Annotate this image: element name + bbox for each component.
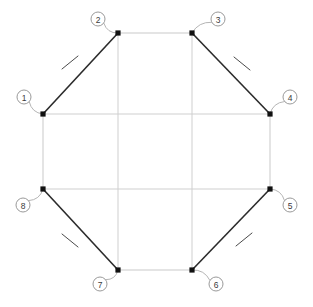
vertex-dot-4[interactable] — [267, 111, 272, 116]
vertex-dot-7[interactable] — [115, 267, 120, 272]
label-number-5: 5 — [288, 201, 293, 211]
label-number-4: 4 — [288, 93, 293, 103]
leader-line-vertex-6 — [192, 270, 210, 280]
vertex-dots-layer — [40, 30, 272, 272]
vertex-label-7[interactable]: 7 — [93, 277, 107, 291]
tick-edge-1-2 — [62, 56, 78, 69]
vertex-dot-2[interactable] — [115, 30, 120, 35]
vertex-dot-3[interactable] — [189, 30, 194, 35]
vertex-label-4[interactable]: 4 — [283, 90, 297, 104]
vertex-labels-layer: 12345678 — [16, 12, 297, 291]
vertex-label-3[interactable]: 3 — [211, 12, 225, 26]
label-number-6: 6 — [214, 280, 219, 290]
label-number-8: 8 — [21, 201, 26, 211]
label-number-3: 3 — [216, 15, 221, 25]
label-number-7: 7 — [98, 280, 103, 290]
octagon-diagram: 12345678 — [0, 0, 313, 307]
edge-7-8 — [43, 189, 118, 270]
vertex-label-8[interactable]: 8 — [16, 198, 30, 212]
vertex-dot-1[interactable] — [40, 111, 45, 116]
tick-edge-3-4 — [234, 57, 250, 70]
grid-lines-layer — [43, 33, 270, 270]
edge-3-4 — [192, 33, 270, 114]
vertex-label-2[interactable]: 2 — [91, 12, 105, 26]
label-number-2: 2 — [96, 15, 101, 25]
octagon-edges-layer — [43, 33, 270, 270]
vertex-label-5[interactable]: 5 — [283, 198, 297, 212]
vertex-dot-8[interactable] — [40, 186, 45, 191]
vertex-label-6[interactable]: 6 — [209, 277, 223, 291]
vertex-dot-5[interactable] — [267, 186, 272, 191]
leader-lines-layer — [28, 22, 284, 280]
vertex-label-1[interactable]: 1 — [17, 90, 31, 104]
label-number-1: 1 — [22, 93, 27, 103]
edge-5-6 — [192, 189, 270, 270]
vertex-dot-6[interactable] — [189, 267, 194, 272]
tick-edge-5-6 — [236, 233, 252, 246]
tick-marks-layer — [62, 56, 252, 247]
edge-1-2 — [43, 33, 118, 114]
leader-line-vertex-3 — [192, 22, 212, 33]
tick-edge-7-8 — [62, 234, 78, 247]
diagram-canvas: 12345678 — [0, 0, 313, 307]
